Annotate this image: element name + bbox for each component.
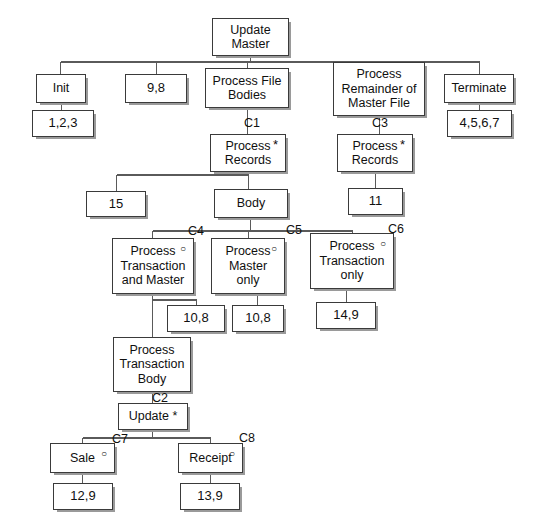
- condition-label-c8: C8: [239, 432, 255, 445]
- node-label-process-remainder: Process Remainder of Master File: [337, 67, 420, 111]
- node-init: Init: [36, 74, 86, 103]
- node-label-body: Body: [233, 196, 270, 211]
- node-label-process-file-bodies: Process File Bodies: [209, 74, 286, 103]
- node-receipt: Receipt○: [178, 443, 243, 473]
- node-process-records-c3: Process Records*: [337, 134, 413, 172]
- node-label-init-ops: 1,2,3: [45, 116, 82, 131]
- selection-marker-icon-sale: ○: [101, 448, 107, 459]
- node-ops-10-8-right: 10,8: [232, 305, 284, 332]
- node-label-process-txn-body: Process Transaction Body: [116, 343, 189, 387]
- node-process-txn-body: Process Transaction Body: [113, 337, 191, 392]
- node-open-files-ops: 9,8: [125, 74, 187, 103]
- node-label-sale: Sale: [66, 451, 99, 466]
- node-fifteen: 15: [86, 191, 146, 217]
- node-init-ops: 1,2,3: [32, 110, 94, 137]
- structure-diagram: Update MasterInit1,2,39,8Process File Bo…: [0, 0, 538, 528]
- node-process-remainder: Process Remainder of Master File: [333, 62, 425, 116]
- selection-marker-icon-process-master-only: ○: [271, 243, 277, 254]
- node-ops-10-8-left: 10,8: [167, 305, 225, 332]
- node-update: Update *: [118, 403, 188, 430]
- node-label-open-files-ops: 9,8: [143, 81, 169, 96]
- condition-label-c6: C6: [388, 223, 404, 236]
- node-label-update: Update *: [125, 409, 182, 424]
- condition-label-c5: C5: [286, 224, 302, 237]
- node-label-update-master: Update Master: [226, 23, 274, 52]
- node-label-fifteen: 15: [105, 197, 127, 212]
- node-label-terminate-ops: 4,5,6,7: [456, 116, 504, 131]
- node-process-records-c1: Process Records*: [210, 134, 286, 172]
- node-label-ops-10-8-right: 10,8: [241, 311, 274, 326]
- selection-marker-icon-process-txn-only: ○: [380, 238, 386, 249]
- node-label-process-txn-and-master: Process Transaction and Master: [117, 244, 190, 288]
- node-label-process-records-c3: Process Records: [348, 139, 403, 168]
- iteration-marker-icon-process-records-c3: *: [400, 139, 405, 150]
- node-process-file-bodies: Process File Bodies: [205, 68, 289, 108]
- node-label-eleven: 11: [365, 194, 387, 209]
- node-terminate: Terminate: [444, 74, 514, 103]
- condition-label-c2: C2: [152, 392, 168, 405]
- node-update-master: Update Master: [212, 18, 289, 56]
- node-ops-14-9: 14,9: [316, 302, 376, 329]
- node-label-process-records-c1: Process Records: [221, 139, 276, 168]
- node-label-init: Init: [49, 81, 74, 96]
- condition-label-c7: C7: [112, 433, 128, 446]
- node-process-txn-only: Process Transaction only○: [310, 233, 394, 289]
- node-sale: Sale○: [50, 443, 115, 473]
- node-ops-13-9: 13,9: [180, 483, 240, 510]
- node-eleven: 11: [348, 188, 403, 215]
- node-label-ops-12-9: 12,9: [66, 489, 99, 504]
- condition-label-c1: C1: [244, 117, 260, 130]
- node-process-txn-and-master: Process Transaction and Master○: [112, 238, 194, 294]
- node-label-ops-13-9: 13,9: [193, 489, 226, 504]
- selection-marker-icon-process-txn-and-master: ○: [180, 243, 186, 254]
- node-label-ops-10-8-left: 10,8: [179, 311, 212, 326]
- node-label-terminate: Terminate: [448, 81, 511, 96]
- node-label-process-txn-only: Process Transaction only: [316, 239, 389, 283]
- node-process-master-only: Process Master only○: [211, 238, 285, 294]
- node-ops-12-9: 12,9: [53, 483, 113, 510]
- node-body: Body: [214, 189, 288, 218]
- iteration-marker-icon-process-records-c1: *: [273, 139, 278, 150]
- condition-label-c4: C4: [188, 225, 204, 238]
- selection-marker-icon-receipt: ○: [229, 448, 235, 459]
- node-label-process-master-only: Process Master only: [221, 244, 274, 288]
- condition-label-c3: C3: [372, 117, 388, 130]
- node-label-ops-14-9: 14,9: [329, 308, 362, 323]
- node-terminate-ops: 4,5,6,7: [447, 110, 512, 137]
